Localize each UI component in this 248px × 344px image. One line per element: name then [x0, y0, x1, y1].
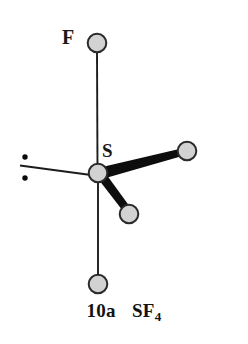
bond-lone-pair-line [20, 166, 91, 176]
atom-fluorine-equatorial-lower-right [120, 205, 139, 224]
caption-formula-subscript: 4 [155, 309, 162, 324]
molecule-figure: F S 10aSF4 [0, 0, 248, 344]
atom-fluorine-axial-top [88, 34, 107, 53]
atom-fluorine-axial-bottom [89, 275, 108, 294]
bond-wedge-equatorial-right [100, 148, 184, 179]
caption-formula-base: SF [132, 300, 155, 321]
atom-label-fluorine: F [62, 27, 74, 47]
lone-pair-dot-upper [22, 154, 27, 159]
molecule-svg [0, 0, 248, 344]
caption-compound-id: 10a [87, 300, 116, 321]
bond-axial-top [97, 52, 98, 170]
atom-fluorine-equatorial-right [178, 142, 197, 161]
lone-pair-dot-lower [22, 175, 27, 180]
caption-formula: SF4 [132, 300, 162, 321]
atom-label-sulfur: S [102, 141, 113, 160]
figure-caption: 10aSF4 [0, 300, 248, 325]
atom-sulfur-center [89, 164, 108, 183]
